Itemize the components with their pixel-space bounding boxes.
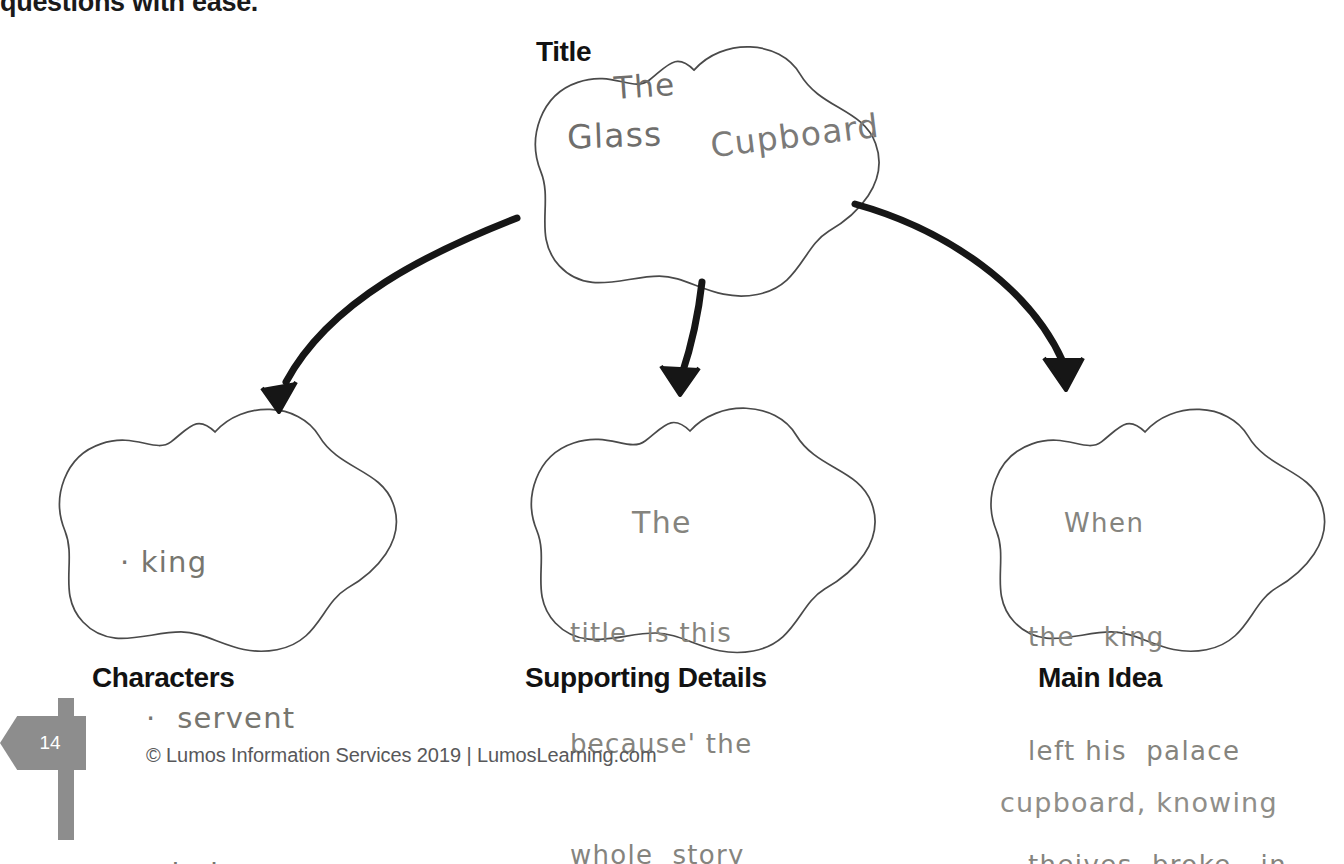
handwriting-title-line-1: The bbox=[613, 66, 677, 106]
handwriting-main-line-4: theives broke in bbox=[1028, 846, 1287, 864]
handwriting-supporting-line-4: whole story bbox=[570, 837, 863, 864]
connector-title-to-supporting-details bbox=[661, 282, 702, 395]
handwriting-title-line-2: Glass bbox=[566, 114, 663, 156]
handwriting-title-line-3: Cupboard bbox=[708, 106, 881, 165]
caption-characters: Characters bbox=[92, 662, 234, 694]
handwriting-main-line-2: the king bbox=[1028, 618, 1287, 656]
handwriting-characters-line-2: · servent bbox=[120, 692, 295, 744]
connector-title-to-main-idea bbox=[855, 204, 1083, 390]
handwriting-supporting-line-1: The bbox=[570, 504, 863, 541]
handwriting-supporting-line-2: title is this bbox=[570, 615, 863, 652]
handwriting-overflow-line-1: cupboard, knowing bbox=[1000, 782, 1278, 824]
cloud-title bbox=[536, 47, 879, 296]
cloud-characters bbox=[60, 409, 397, 651]
handwriting-main-line-3: left his palace bbox=[1028, 732, 1287, 770]
footer-copyright: © Lumos Information Services 2019 | Lumo… bbox=[146, 744, 656, 767]
handwriting-main-idea-overflow: cupboard, knowing of the rule the asked … bbox=[1000, 698, 1278, 864]
handwriting-supporting-details: The title is this because' the whole sto… bbox=[570, 430, 863, 864]
cloud-main-idea bbox=[991, 409, 1324, 651]
handwriting-main-idea: When the king left his palace theives br… bbox=[1028, 428, 1287, 864]
page-header-text: questions with ease. bbox=[0, 0, 258, 18]
caption-title: Title bbox=[536, 36, 591, 68]
story-map-canvas bbox=[0, 0, 1344, 864]
cloud-supporting-details bbox=[532, 408, 875, 652]
page-number-signpost-icon: 14 bbox=[0, 698, 112, 840]
handwriting-characters-line-3: · theives bbox=[120, 848, 295, 864]
page-number: 14 bbox=[0, 716, 86, 770]
connector-title-to-characters bbox=[262, 218, 517, 412]
caption-main-idea: Main Idea bbox=[1038, 662, 1162, 694]
handwriting-characters: · king · servent · theives bbox=[120, 432, 295, 864]
handwriting-main-line-1: When bbox=[1028, 504, 1287, 542]
handwriting-characters-line-1: · king bbox=[120, 536, 295, 588]
caption-supporting-details: Supporting Details bbox=[525, 662, 767, 694]
